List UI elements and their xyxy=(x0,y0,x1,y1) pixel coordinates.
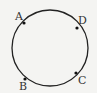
circle xyxy=(12,10,88,86)
point-b-label: B xyxy=(19,80,27,93)
circle-diagram: A D B C xyxy=(0,0,97,93)
point-b: B xyxy=(19,77,27,93)
point-a-label: A xyxy=(14,10,24,23)
point-c: C xyxy=(74,71,86,87)
point-c-label: C xyxy=(78,74,86,87)
diagram-canvas: A D B C xyxy=(0,0,97,93)
point-a: A xyxy=(14,10,26,25)
point-d-label: D xyxy=(78,14,87,27)
